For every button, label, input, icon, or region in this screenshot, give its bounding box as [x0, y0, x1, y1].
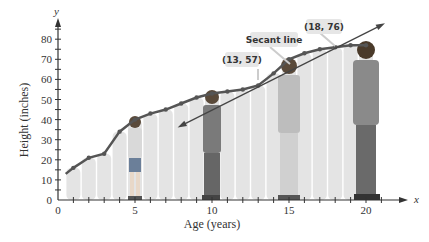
- y-tick-label: 10: [41, 174, 53, 186]
- man-figure-age-20: [353, 41, 380, 200]
- x-tick-label: 20: [361, 204, 373, 216]
- secant-arrow-icon: [376, 23, 385, 30]
- x-tick-label: 5: [132, 204, 138, 216]
- y-tick-label: 30: [41, 134, 53, 146]
- svg-text:(18, 76): (18, 76): [304, 22, 344, 32]
- boy-figure-age-15: [278, 58, 300, 200]
- x-axis-title: Age (years): [184, 217, 240, 231]
- y-tick-label: 50: [41, 94, 53, 106]
- y-tick-label: 20: [41, 154, 53, 166]
- callout-18-76: (18, 76): [304, 19, 344, 46]
- y-tick-label: 0: [47, 194, 53, 206]
- x-axis-arrow-icon: [399, 197, 408, 203]
- y-tick-label: 70: [41, 53, 53, 65]
- y-axis-title: Height (inches): [17, 83, 31, 157]
- x-tick-label: 15: [284, 204, 296, 216]
- x-axis-letter: x: [413, 193, 419, 205]
- x-tick-label: 0: [55, 204, 61, 216]
- y-axis-arrow-icon: [55, 18, 61, 27]
- y-tick-label: 80: [41, 33, 53, 45]
- y-tick-label: 60: [41, 73, 53, 85]
- y-tick-label: 40: [41, 114, 53, 126]
- svg-text:(13, 57): (13, 57): [222, 55, 262, 65]
- callout-13-57: (13, 57): [222, 52, 262, 80]
- x-tick-label: 10: [207, 204, 219, 216]
- y-axis-letter: y: [53, 5, 59, 17]
- svg-text:Secant line: Secant line: [246, 35, 303, 45]
- height-vs-age-chart: 0510152001020304050607080 x y Age (years…: [0, 0, 429, 242]
